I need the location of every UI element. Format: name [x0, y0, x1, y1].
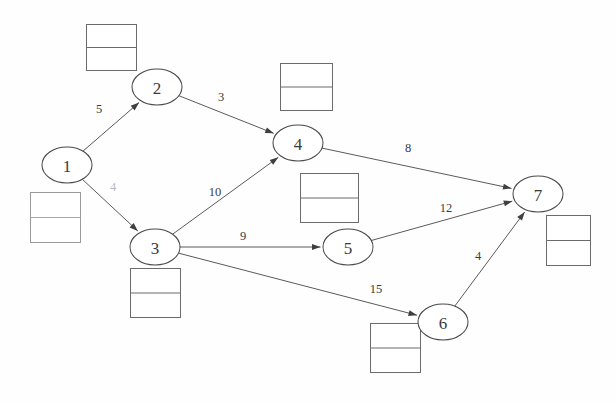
- edge-weight-1-2: 5: [96, 102, 102, 116]
- graph-node-7[interactable]: 7: [513, 176, 563, 212]
- graph-node-6[interactable]: 6: [418, 304, 468, 340]
- edge-weight-3-5: 9: [240, 229, 246, 243]
- graph-node-2[interactable]: 2: [132, 69, 182, 105]
- label-box-for-node-6[interactable]: [371, 324, 421, 373]
- node-label: 1: [63, 157, 72, 176]
- graph-node-4[interactable]: 4: [273, 125, 323, 161]
- edge-weight-3-6: 15: [370, 282, 383, 296]
- arrowhead-icon: [503, 184, 512, 190]
- edge-weight-6-7: 4: [475, 249, 482, 263]
- label-boxes-layer: [31, 25, 591, 373]
- edge-6-to-7[interactable]: [455, 212, 525, 306]
- edge-weight-4-7: 8: [405, 141, 411, 155]
- graph-node-3[interactable]: 3: [130, 229, 180, 265]
- label-box-for-node-4[interactable]: [281, 64, 333, 111]
- arrowhead-icon: [408, 310, 417, 316]
- arrowhead-icon: [503, 201, 512, 207]
- node-label: 6: [439, 314, 448, 333]
- node-label: 7: [534, 186, 543, 205]
- label-box-for-node-1[interactable]: [31, 193, 81, 243]
- label-box-for-node-3[interactable]: [131, 269, 181, 318]
- graph-svg: 1234567 543109158124: [0, 0, 616, 402]
- graph-node-1[interactable]: 1: [42, 147, 92, 183]
- edge-weight-1-3: 4: [110, 180, 117, 194]
- arrowhead-icon: [265, 127, 274, 133]
- label-box-for-node-2[interactable]: [87, 25, 137, 71]
- graph-node-5[interactable]: 5: [323, 229, 373, 265]
- node-label: 3: [151, 239, 160, 258]
- arrowhead-icon: [312, 244, 321, 250]
- diagram-canvas: 1234567 543109158124: [0, 0, 616, 402]
- arrowhead-icon: [270, 157, 279, 164]
- edge-3-to-4[interactable]: [173, 157, 279, 234]
- edge-weight-5-7: 12: [440, 201, 453, 215]
- node-label: 5: [344, 239, 353, 258]
- edge-weight-3-4: 10: [209, 185, 222, 199]
- arrowhead-icon: [517, 212, 524, 221]
- edge-3-to-5[interactable]: [180, 244, 321, 250]
- edge-weight-2-4: 3: [218, 90, 224, 104]
- label-box-for-node-7[interactable]: [547, 216, 591, 266]
- edge-1-to-2[interactable]: [83, 103, 139, 152]
- label-box-for-node-5[interactable]: [301, 174, 359, 223]
- node-label: 2: [153, 79, 162, 98]
- edge-2-to-4[interactable]: [179, 96, 274, 134]
- node-label: 4: [294, 135, 303, 154]
